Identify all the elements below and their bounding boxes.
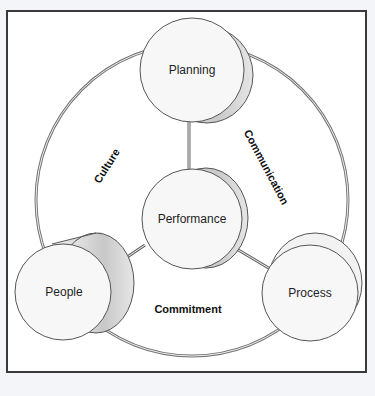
node-performance: Performance [142, 168, 248, 269]
node-planning: Planning [140, 18, 253, 123]
node-process: Process [262, 233, 362, 341]
ring-label-commitment: Commitment [154, 303, 222, 315]
node-people: People [15, 232, 134, 340]
node-planning-label: Planning [169, 63, 216, 77]
node-people-label: People [45, 285, 83, 299]
ring-label-communication: Communication [242, 128, 292, 207]
diagram-canvas: Planning Performance People Process Cult… [0, 0, 375, 396]
ring-label-culture: Culture [91, 146, 122, 185]
node-performance-label: Performance [158, 212, 227, 226]
node-process-label: Process [288, 286, 331, 300]
